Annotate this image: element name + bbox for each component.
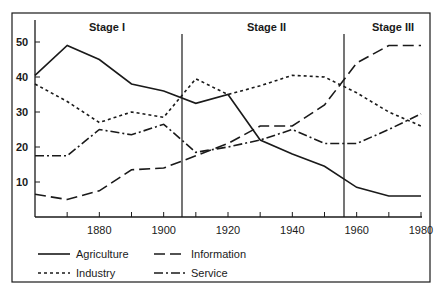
x-tick-label: 1920 (216, 224, 240, 236)
legend-item-agriculture: Agriculture (38, 248, 129, 260)
x-axis-ticks: 188019001920194019601980 (67, 212, 433, 236)
stage-label-1: Stage I (89, 21, 125, 33)
series-agriculture-line (35, 46, 421, 197)
series-service-line (35, 114, 421, 156)
stage-label-2: Stage II (247, 21, 286, 33)
legend-label-information: Information (191, 248, 246, 260)
x-tick-label: 1940 (280, 224, 304, 236)
y-tick-label: 50 (16, 36, 28, 48)
series-industry-line (35, 75, 421, 126)
x-tick-label: 1880 (87, 224, 111, 236)
y-tick-label: 30 (16, 106, 28, 118)
series-information-line (35, 46, 421, 200)
legend-label-industry: Industry (76, 267, 116, 279)
y-tick-label: 20 (16, 141, 28, 153)
legend: Agriculture Information Industry Service (38, 248, 246, 279)
legend-item-industry: Industry (38, 267, 116, 279)
x-tick-label: 1980 (409, 224, 433, 236)
line-chart: 1020304050 188019001920194019601980 Stag… (0, 0, 441, 292)
x-tick-label: 1900 (151, 224, 175, 236)
y-axis-ticks: 1020304050 (16, 36, 40, 188)
legend-label-agriculture: Agriculture (76, 248, 129, 260)
x-tick-label: 1960 (344, 224, 368, 236)
legend-label-service: Service (191, 267, 228, 279)
stage-label-3: Stage III (372, 21, 414, 33)
legend-item-information: Information (154, 248, 246, 260)
y-tick-label: 10 (16, 176, 28, 188)
legend-item-service: Service (154, 267, 228, 279)
y-tick-label: 40 (16, 71, 28, 83)
